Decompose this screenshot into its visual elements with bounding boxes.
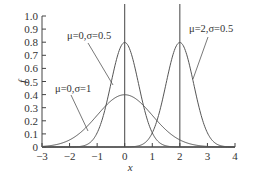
x-tick-label: 3 xyxy=(205,150,211,162)
y-tick-label: 0.8 xyxy=(24,36,38,48)
x-tick-label: 2 xyxy=(177,150,183,162)
y-tick-label: 0.6 xyxy=(24,62,38,74)
y-tick-label: 0.2 xyxy=(24,115,38,127)
y-tick-label: 1.0 xyxy=(24,10,38,22)
x-tick-label: −3 xyxy=(36,150,48,162)
curves xyxy=(42,42,235,147)
x-tick-label: −1 xyxy=(91,150,103,162)
annotations: μ=0,σ=0.5μ=0,σ=1μ=2,σ=0.5 xyxy=(55,23,233,131)
y-tick-label: 0.3 xyxy=(24,102,38,114)
x-tick-label: −2 xyxy=(64,150,76,162)
y-tick-label: 0.1 xyxy=(24,128,38,140)
annotation-mu2-sigma05: μ=2,σ=0.5 xyxy=(189,23,233,34)
x-axis-label: x xyxy=(127,161,133,173)
annotation-mu0-sigma1: μ=0,σ=1 xyxy=(55,83,91,94)
annotation-mu0-sigma05: μ=0,σ=0.5 xyxy=(67,30,111,41)
pdf-curve xyxy=(42,42,235,147)
y-tick-label: 0.4 xyxy=(24,89,38,101)
normal-distribution-chart: 00.10.20.30.40.50.60.70.80.91.0−3−2−1012… xyxy=(0,0,253,177)
pdf-curve xyxy=(42,95,235,147)
y-tick-label: 0.9 xyxy=(24,23,38,35)
x-tick-label: 4 xyxy=(232,150,238,162)
pdf-curve xyxy=(42,42,235,147)
y-tick-label: 0.7 xyxy=(24,49,38,61)
x-tick-label: 1 xyxy=(150,150,156,162)
